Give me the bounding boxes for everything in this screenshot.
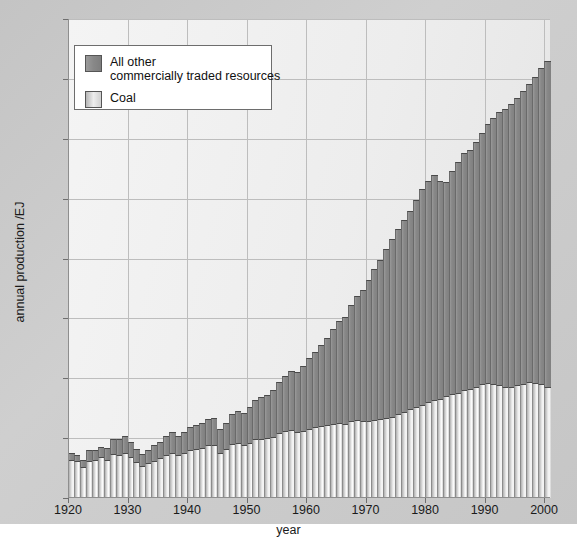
x-axis-tick-mark [485,498,486,503]
legend-item-all-other: All other commercially traded resources [85,55,271,83]
x-axis-tick-mark [187,498,188,503]
legend-label-coal: Coal [110,91,136,106]
y-axis-title: annual production /EJ [10,0,30,524]
legend-label-all-other-line1: All other [110,56,280,70]
x-axis-tick-label: 1970 [352,503,380,517]
x-axis-tick-label: 1920 [54,503,82,517]
y-axis-tick-mark [63,199,68,200]
y-axis-tick-mark [63,378,68,379]
x-axis-tick-label: 1950 [233,503,261,517]
chart-legend: All other commercially traded resources … [74,45,272,110]
x-axis-tick-label: 1960 [292,503,320,517]
x-axis-tick-label: 1980 [411,503,439,517]
y-axis-tick-mark [63,79,68,80]
legend-item-coal: Coal [85,91,271,108]
bar-segment-all-other [544,61,551,387]
legend-swatch-all-other-icon [85,55,102,72]
bar-column [544,19,551,498]
x-axis-tick-mark [425,498,426,503]
x-axis-title: year [0,523,577,537]
x-axis-tick-label: 1990 [471,503,499,517]
legend-label-all-other-line2: commercially traded resources [110,70,280,84]
y-axis-tick-mark [63,318,68,319]
y-axis-tick-mark [63,19,68,20]
x-axis-tick-mark [366,498,367,503]
x-axis-tick-label: 1940 [173,503,201,517]
y-axis-tick-mark [63,139,68,140]
x-axis-tick-mark [68,498,69,503]
chart-figure: 050100150200250300350400 192019301940195… [0,0,577,556]
legend-label-all-other: All other commercially traded resources [110,55,280,83]
x-axis-tick-label: 2000 [530,503,558,517]
x-axis-tick-mark [544,498,545,503]
legend-label-coal-line1: Coal [110,92,136,106]
y-axis-tick-mark [63,259,68,260]
legend-swatch-coal-icon [85,91,102,108]
y-axis-tick-mark [63,438,68,439]
x-axis-tick-mark [306,498,307,503]
x-axis-tick-label: 1930 [114,503,142,517]
bar-segment-coal [544,387,551,498]
y-axis-title-text: annual production /EJ [13,202,27,323]
x-axis-tick-mark [247,498,248,503]
x-axis-tick-mark [128,498,129,503]
